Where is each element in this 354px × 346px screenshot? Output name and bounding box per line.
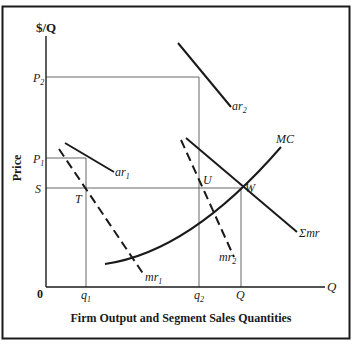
price-label: Price bbox=[10, 154, 24, 181]
mr2-label: mr2 bbox=[219, 250, 236, 266]
mr1-curve bbox=[59, 149, 144, 275]
y-axis-label: $/Q bbox=[36, 20, 56, 35]
sum-mr-label: Σmr bbox=[298, 226, 320, 240]
q2-tick-label: q2 bbox=[194, 288, 204, 304]
s-tick-label: S bbox=[35, 182, 41, 196]
diagram-title: Firm Output and Segment Sales Quantities bbox=[70, 311, 291, 325]
ar2-label: ar2 bbox=[232, 99, 247, 115]
ar1-label: ar1 bbox=[115, 165, 130, 181]
q1-tick-label: q1 bbox=[81, 288, 91, 304]
outer-frame bbox=[3, 7, 350, 339]
mc-label: MC bbox=[275, 132, 295, 146]
Q-tick-label: Q bbox=[236, 288, 245, 302]
guide-lines bbox=[46, 77, 241, 287]
mr1-label: mr1 bbox=[145, 270, 162, 286]
ar2-curve bbox=[178, 43, 231, 107]
origin-label: 0 bbox=[37, 287, 43, 301]
point-u-label: U bbox=[203, 173, 213, 187]
p2-tick-label: P2 bbox=[32, 71, 44, 87]
point-t-label: T bbox=[75, 192, 83, 206]
point-w-label: W bbox=[245, 181, 256, 195]
x-axis-label: Q bbox=[327, 279, 337, 294]
diagram-canvas: $/Q Price P2 P1 S 0 q1 q2 Q Q ar2 ar1 mr… bbox=[0, 0, 354, 346]
mc-curve bbox=[105, 147, 281, 264]
p1-tick-label: P1 bbox=[32, 152, 44, 168]
mr2-curve bbox=[181, 140, 234, 257]
